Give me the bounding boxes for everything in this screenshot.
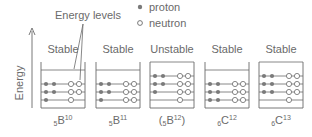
neutron-circle (286, 89, 291, 94)
neutron-circle (131, 81, 136, 86)
neutron-circle (240, 81, 245, 86)
nuclear-shell-diagram: proton neutron Energy levels Energy Stab… (0, 0, 312, 137)
neutron-circle (294, 81, 299, 86)
proton-dot (153, 74, 157, 78)
neutron-circle (240, 89, 245, 94)
isotope-label: 6C12 (217, 114, 237, 127)
nucleus-B12: Unstable(5B12) (150, 43, 194, 127)
neutron-circle (286, 73, 291, 78)
isotope-label: 6C13 (271, 114, 291, 127)
proton-dot (52, 82, 56, 86)
neutron-circle (294, 73, 299, 78)
proton-dot (107, 82, 111, 86)
isotope-label: (5B12) (159, 114, 185, 127)
proton-dot (161, 82, 165, 86)
neutron-circle (123, 97, 128, 102)
proton-dot (262, 82, 266, 86)
neutron-circle (76, 81, 81, 86)
neutron-circle (232, 89, 237, 94)
proton-dot (44, 98, 48, 102)
neutron-circle (185, 81, 190, 86)
neutron-circle (123, 89, 128, 94)
neutron-circle (177, 89, 182, 94)
nuclei-group: Stable5B10Stable5B11Unstable(5B12)Stable… (41, 43, 303, 127)
neutron-circle (177, 97, 182, 102)
proton-legend-icon (138, 5, 142, 9)
proton-dot (161, 74, 165, 78)
neutron-circle (131, 97, 136, 102)
proton-dot (44, 90, 48, 94)
proton-dot (153, 90, 157, 94)
neutron-legend-label: neutron (149, 17, 186, 29)
neutron-circle (286, 81, 291, 86)
proton-dot (216, 98, 220, 102)
proton-dot (208, 90, 212, 94)
neutron-circle (177, 73, 182, 78)
neutron-circle (131, 89, 136, 94)
stability-label: Stable (211, 43, 242, 55)
neutron-circle (286, 97, 291, 102)
proton-dot (270, 74, 274, 78)
proton-dot (99, 90, 103, 94)
proton-dot (208, 82, 212, 86)
stability-label: Stable (47, 43, 78, 55)
nucleus-B11: Stable5B11 (96, 43, 140, 127)
legend: proton neutron (138, 1, 187, 29)
stability-label: Stable (265, 43, 296, 55)
isotope-label: 5B10 (53, 114, 72, 127)
energy-axis: Energy (13, 28, 35, 108)
stability-label: Stable (102, 43, 133, 55)
proton-dot (52, 90, 56, 94)
neutron-circle (185, 89, 190, 94)
proton-dot (216, 82, 220, 86)
proton-dot (270, 82, 274, 86)
nucleus-B10: Stable5B10 (41, 43, 85, 127)
neutron-circle (185, 73, 190, 78)
energy-axis-label: Energy (13, 65, 25, 100)
proton-dot (270, 90, 274, 94)
proton-dot (99, 82, 103, 86)
neutron-circle (240, 97, 245, 102)
neutron-circle (177, 81, 182, 86)
proton-dot (208, 98, 212, 102)
isotope-label: 5B11 (109, 114, 128, 127)
nucleus-C13: Stable6C13 (259, 43, 303, 127)
proton-legend-label: proton (149, 1, 180, 13)
neutron-circle (76, 89, 81, 94)
neutron-circle (68, 97, 73, 102)
proton-dot (262, 90, 266, 94)
proton-dot (107, 90, 111, 94)
proton-dot (44, 82, 48, 86)
neutron-circle (68, 81, 73, 86)
proton-dot (262, 74, 266, 78)
neutron-circle (232, 97, 237, 102)
energy-levels-annotation: Energy levels (55, 9, 122, 21)
proton-dot (99, 98, 103, 102)
proton-dot (216, 90, 220, 94)
stability-label: Unstable (150, 43, 193, 55)
neutron-circle (294, 89, 299, 94)
proton-dot (153, 82, 157, 86)
nucleus-C12: Stable6C12 (205, 43, 249, 127)
neutron-circle (232, 81, 237, 86)
neutron-legend-icon (138, 21, 143, 26)
neutron-circle (123, 81, 128, 86)
neutron-circle (68, 89, 73, 94)
